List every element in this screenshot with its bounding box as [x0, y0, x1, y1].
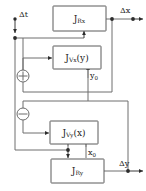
block-j-ry-sub: Ry	[75, 169, 83, 177]
label-feedback-y0: y0	[89, 71, 99, 81]
wire-bus-to-jry-input	[15, 150, 68, 158]
wire-sum-plus-to-jvx	[23, 58, 52, 70]
node-dot-input-bus	[13, 36, 17, 40]
block-j-vx-arg: (y)	[77, 53, 89, 63]
block-j-ry[interactable]: JRy	[51, 159, 104, 183]
block-j-rx[interactable]: JRx	[53, 6, 106, 31]
label-x0-sub: 0	[93, 152, 97, 158]
node-dot-x0-branch	[66, 148, 70, 152]
diagram-canvas: JRx JVx(y) JVy(x) JRy	[0, 0, 146, 191]
block-j-vx[interactable]: JVx(y)	[53, 46, 101, 69]
wire-bus-to-sum-minus	[23, 101, 88, 108]
wire-bus-to-jrx-input	[15, 31, 84, 38]
svg-text:JVy(x): JVy(x)	[61, 128, 85, 139]
node-dot-deltay	[126, 169, 130, 173]
block-j-vy[interactable]: JVy(x)	[50, 121, 98, 144]
node-dot-input-top	[13, 17, 16, 20]
wire-feedback-to-sum-plus	[23, 82, 112, 92]
node-dot-deltax-out	[131, 17, 135, 21]
label-input-delta-t: Δt	[19, 10, 29, 19]
label-output-delta-x: Δx	[120, 6, 131, 15]
label-output-delta-y: Δy	[119, 159, 130, 168]
label-feedback-x0: x0	[88, 148, 97, 158]
wire-sum-minus-to-jvy	[23, 120, 49, 133]
node-dot-deltax	[110, 17, 114, 21]
summing-junction-minus[interactable]	[17, 108, 29, 120]
block-j-vy-arg: (x)	[73, 128, 85, 138]
svg-text:JVx(y): JVx(y)	[64, 53, 88, 63]
block-j-rx-sub: Rx	[77, 17, 86, 24]
block-diagram: JRx JVx(y) JVy(x) JRy	[0, 0, 146, 191]
label-y0-sub: 0	[95, 75, 99, 81]
summing-junction-plus[interactable]	[17, 70, 29, 82]
